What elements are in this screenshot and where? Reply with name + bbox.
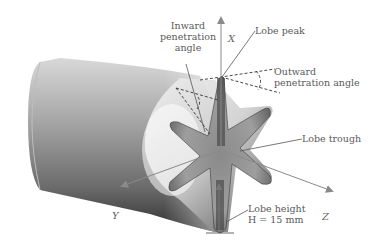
outward-label-line2: penetration angle (274, 77, 360, 88)
lobe-height-line1: Lobe height (248, 203, 306, 214)
lobe-height-label: Lobe height H = 15 mm (248, 203, 306, 225)
z-axis-label: Z (322, 211, 329, 222)
lobe-trough-label: Lobe trough (302, 133, 361, 144)
lobed-nozzle-diagram: Inward penetration angle Lobe peak Outwa… (0, 0, 374, 242)
inward-label-line3: angle (151, 42, 225, 53)
outward-label-line1: Outward (274, 66, 360, 77)
inward-label-line2: penetration (151, 31, 225, 42)
y-axis-label: Y (112, 210, 119, 221)
x-axis-label: X (228, 33, 235, 44)
z-axis-arrow (221, 150, 332, 191)
inward-penetration-angle-label: Inward penetration angle (151, 20, 225, 53)
lobe-peak-label: Lobe peak (255, 25, 305, 36)
lobe-height-line2: H = 15 mm (248, 214, 306, 225)
outward-penetration-angle-label: Outward penetration angle (274, 66, 360, 88)
lobe-peak-leader (222, 31, 255, 77)
inward-label-line1: Inward (151, 20, 225, 31)
